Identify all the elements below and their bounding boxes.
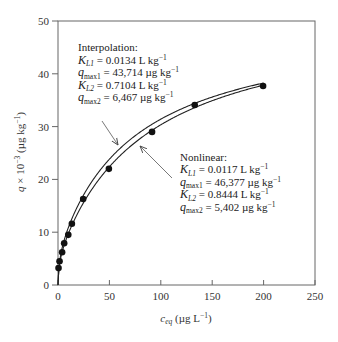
y-tick-label: 30	[38, 121, 50, 133]
data-point	[61, 240, 68, 247]
x-tick-label: 50	[104, 290, 116, 302]
data-point	[80, 196, 87, 203]
data-point	[191, 102, 198, 109]
x-tick-label: 200	[255, 290, 272, 302]
data-point	[149, 129, 156, 136]
data-point	[65, 232, 72, 239]
data-point	[55, 265, 62, 272]
data-point	[260, 83, 267, 90]
x-axis-ticks: 050100150200250	[55, 280, 324, 302]
annotation-title: Nonlinear:	[180, 151, 227, 163]
y-tick-label: 20	[38, 173, 50, 185]
interpolation-arrow	[102, 121, 118, 145]
x-tick-label: 0	[55, 290, 61, 302]
interpolation-annotation: Interpolation:KL1 = 0.0134 L kg−1qmax1 =…	[77, 41, 179, 106]
y-tick-label: 0	[44, 279, 50, 291]
x-axis-label: ceq (µg L−1)	[160, 311, 212, 326]
y-axis-label: q × 10−3 (µg kg−1)	[13, 112, 27, 192]
nonlinear-arrow	[140, 146, 172, 178]
y-tick-label: 10	[38, 226, 50, 238]
y-axis-ticks: 01020304050	[38, 15, 58, 291]
chart-figure: 050100150200250 01020304050 ceq (µg L−1)…	[0, 0, 338, 342]
nonlinear-annotation: Nonlinear:KL1 = 0.0117 L kg−1qmax1 = 46,…	[179, 151, 281, 215]
x-tick-label: 100	[153, 290, 170, 302]
data-point	[56, 258, 63, 265]
data-point	[69, 220, 76, 227]
y-tick-label: 50	[38, 15, 50, 27]
data-point	[106, 166, 113, 173]
x-tick-label: 250	[307, 290, 324, 302]
y-tick-label: 40	[38, 68, 50, 80]
data-point	[59, 249, 66, 256]
annotation-title: Interpolation:	[78, 41, 138, 53]
x-tick-label: 150	[204, 290, 221, 302]
